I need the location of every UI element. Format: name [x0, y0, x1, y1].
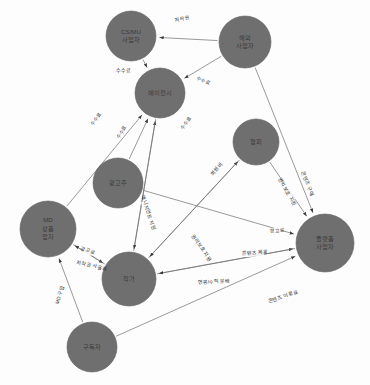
node-label-assoc: 협회 [250, 138, 262, 146]
node-platform[interactable]: 플랫폼사업자 [296, 214, 354, 272]
node-label-advert: 광고주 [109, 179, 127, 187]
node-label-platform: 사업자 [316, 243, 334, 251]
edge-label-e4: 수수료 [89, 111, 103, 127]
nodes-layer: CS/MU사업자해외사업자에이전시협회광고주MD상품업자플랫폼사업자작가구독자 [20, 11, 354, 372]
node-label-csmu: CS/MU [121, 28, 141, 35]
edge-label-e9: 권익보호 지원 [276, 177, 298, 208]
node-md[interactable]: MD상품업자 [20, 201, 76, 257]
edge-overseas-to-csmu [159, 37, 217, 40]
node-label-overseas: 사업자 [236, 42, 254, 50]
edge-platform-to-author [159, 249, 295, 274]
edge-label-e16: 저작권 사용료 [76, 259, 108, 273]
node-label-subscriber: 구독자 [83, 343, 101, 351]
edge-label-e3: 수수료 [195, 74, 212, 87]
edge-label-e12: 권리보호 지원 [189, 233, 212, 263]
node-overseas[interactable]: 해외사업자 [219, 16, 271, 68]
diagram-canvas: CS/MU사업자해외사업자에이전시협회광고주MD상품업자플랫폼사업자작가구독자 … [0, 0, 370, 385]
edge-label-e5: 수수료 [115, 124, 129, 140]
node-label-csmu: 사업자 [122, 36, 140, 44]
edge-label-e17: MD 구입 [54, 285, 66, 305]
edge-label-e11: 광고료 [269, 226, 285, 234]
network-graph-svg: CS/MU사업자해외사업자에이전시협회광고주MD상품업자플랫폼사업자작가구독자 … [0, 0, 370, 385]
node-label-md: 업자 [42, 233, 54, 241]
edge-advert-to-agency [129, 119, 148, 159]
node-label-md: 상품 [42, 225, 54, 232]
node-subscriber[interactable]: 구독자 [67, 322, 117, 372]
node-author[interactable]: 작가 [102, 252, 156, 306]
node-agency[interactable]: 에이전시 [135, 68, 185, 118]
node-assoc[interactable]: 협회 [233, 119, 279, 165]
node-label-overseas: 해외 [239, 34, 251, 42]
node-label-agency: 에이전시 [148, 89, 172, 97]
edge-labels-layer: 저작권수수료수수료수수료수수료수수료매니지먼트 지원회원비권익보호 지원콘텐츠 … [54, 14, 315, 305]
node-label-author: 작가 [123, 275, 135, 283]
node-label-md: MD [43, 216, 53, 223]
edge-overseas-to-agency [184, 56, 221, 78]
edge-label-e6: 수수료 [179, 115, 193, 131]
node-csmu[interactable]: CS/MU사업자 [106, 11, 156, 61]
node-advert[interactable]: 광고주 [93, 158, 143, 208]
edge-csmu-to-agency [143, 60, 147, 68]
edge-label-e7: 매니지먼트 지원 [139, 195, 157, 232]
edge-label-e2: 수수료 [116, 67, 131, 74]
node-label-platform: 플랫폼 [316, 235, 334, 243]
